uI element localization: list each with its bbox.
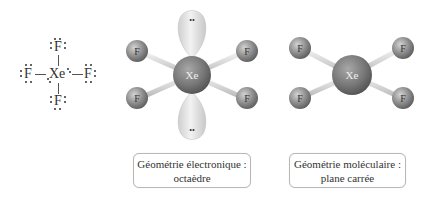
- lewis-xe-center: Xe: [49, 67, 65, 81]
- lone-pair-dot: [50, 42, 52, 44]
- lone-pair-symbol-bottom: ••: [189, 126, 195, 135]
- bond-line-right: [72, 74, 83, 75]
- xe-atom-label: Xe: [346, 69, 359, 81]
- molecular-geometry-model: Xe F F F F: [270, 20, 430, 130]
- f-atom-label: F: [297, 43, 303, 54]
- electronic-geometry-label: Géométrie électronique : octaèdre: [133, 153, 251, 188]
- lone-pair-dot: [20, 70, 22, 72]
- lone-pair-dot: [49, 81, 51, 83]
- f-atom-label: F: [134, 93, 140, 104]
- lone-pair-dot: [30, 81, 32, 83]
- electronic-geometry-title: Géométrie électronique :: [134, 157, 250, 171]
- lone-pair-dot: [67, 68, 69, 70]
- lone-pair-dot: [85, 81, 87, 83]
- lone-pair-dot: [20, 75, 22, 77]
- f-atom-label: F: [400, 93, 406, 104]
- lone-pair-dot: [64, 96, 66, 98]
- lone-pair-dot: [64, 47, 66, 49]
- lone-pair-dot: [59, 108, 61, 110]
- lone-pair-dot: [94, 75, 96, 77]
- molecular-geometry-label: Géométrie moléculaire : plane carrée: [289, 153, 406, 188]
- molecular-geometry-title: Géométrie moléculaire :: [290, 157, 405, 171]
- xe-atom-label: Xe: [186, 69, 199, 81]
- lone-pair-dot: [94, 70, 96, 72]
- electronic-geometry-model: •• •• Xe F F F F: [110, 0, 270, 150]
- f-atom-label: F: [400, 43, 406, 54]
- lone-pair-dot: [54, 38, 56, 40]
- lone-pair-dot: [90, 64, 92, 66]
- lone-pair-dot: [25, 64, 27, 66]
- lewis-f-top: F: [54, 40, 62, 54]
- f-atom-label: F: [244, 93, 250, 104]
- bond-line-left: [35, 74, 46, 75]
- lone-pair-dot: [25, 81, 27, 83]
- f-atom-label: F: [244, 46, 250, 57]
- lewis-f-bottom: F: [54, 94, 62, 108]
- lewis-f-left: F: [24, 67, 32, 81]
- f-atom-label: F: [297, 93, 303, 104]
- lone-pair-dot: [64, 101, 66, 103]
- lone-pair-dot: [59, 38, 61, 40]
- lone-pair-dot: [64, 42, 66, 44]
- f-atom-label: F: [134, 46, 140, 57]
- lone-pair-dot: [50, 47, 52, 49]
- lone-pair-dot: [50, 101, 52, 103]
- lone-pair-dot: [50, 96, 52, 98]
- molecular-geometry-value: plane carrée: [290, 171, 405, 185]
- lone-pair-dot: [54, 108, 56, 110]
- lone-pair-dot: [85, 64, 87, 66]
- lone-pair-dot: [30, 64, 32, 66]
- bond-line-top: [58, 55, 59, 66]
- lewis-structure: F F Xe F F: [0, 0, 120, 140]
- lone-pair-dot: [47, 78, 49, 80]
- lewis-f-right: F: [84, 67, 92, 81]
- lone-pair-symbol-top: ••: [189, 16, 195, 25]
- lone-pair-dot: [90, 81, 92, 83]
- electronic-geometry-value: octaèdre: [134, 171, 250, 185]
- lone-pair-dot: [69, 71, 71, 73]
